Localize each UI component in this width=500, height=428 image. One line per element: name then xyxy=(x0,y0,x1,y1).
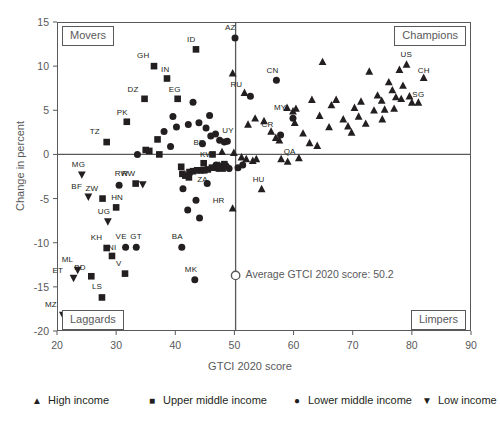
x-tick-label: 30 xyxy=(96,339,136,351)
y-tick-label: -5 xyxy=(23,193,49,205)
data-point-label: KW xyxy=(200,150,213,159)
data-point-label: BD xyxy=(74,263,86,272)
legend-item-high-income: ▲ High income xyxy=(30,394,109,406)
data-point-label: HU xyxy=(253,175,265,184)
data-point-label: GH xyxy=(137,51,149,60)
data-point-label: KH xyxy=(91,233,103,242)
data-point-label: CR xyxy=(262,120,274,129)
data-point-label: TZ xyxy=(90,127,100,136)
data-point-label: IN xyxy=(161,65,169,74)
data-point-label: MY xyxy=(274,103,286,112)
square-icon: ■ xyxy=(145,395,159,406)
circle-icon: ● xyxy=(290,395,304,406)
y-tick-label: -10 xyxy=(23,237,49,249)
legend-label-high-income: High income xyxy=(48,394,109,406)
y-tick-label: -20 xyxy=(23,325,49,337)
triangle-up-icon: ▲ xyxy=(30,395,44,406)
data-point-label: CH xyxy=(418,66,430,75)
x-tick-label: 60 xyxy=(274,339,314,351)
data-point-label: ZA xyxy=(197,175,208,184)
x-tick-label: 80 xyxy=(392,339,432,351)
data-point-label: BR xyxy=(194,138,206,147)
data-point-label: ET xyxy=(53,266,64,275)
y-tick-label: 15 xyxy=(23,16,49,28)
data-point-label: SG xyxy=(412,90,424,99)
y-tick-label: 5 xyxy=(23,104,49,116)
data-point-label: CN xyxy=(266,66,278,75)
data-point-label: UY xyxy=(222,126,234,135)
data-point-label: ZW xyxy=(86,184,99,193)
quadrant-label-movers: Movers xyxy=(62,26,114,46)
y-tick-label: -15 xyxy=(23,281,49,293)
data-point-label: MK xyxy=(185,265,197,274)
x-tick-label: 90 xyxy=(451,339,491,351)
data-point-label: US xyxy=(401,50,413,59)
x-axis-title: GTCI 2020 score xyxy=(0,360,500,372)
x-tick-label: 70 xyxy=(333,339,373,351)
legend-label-low-income: Low income xyxy=(438,394,497,406)
average-score-annotation: Average GTCI 2020 score: 50.2 xyxy=(246,268,394,280)
data-point-label: RW xyxy=(122,169,136,178)
quadrant-label-laggards: Laggards xyxy=(62,310,124,330)
data-point-label: EG xyxy=(169,85,181,94)
quadrant-label-limpers: Limpers xyxy=(411,310,466,330)
y-axis-title: Change in percent xyxy=(14,86,26,246)
data-point-label: VE xyxy=(116,232,127,241)
data-point-label: RU xyxy=(230,80,242,89)
data-point-label: AZ xyxy=(225,23,236,32)
legend-item-low-income: ▼ Low income xyxy=(420,394,497,406)
legend-label-lower-middle-income: Lower middle income xyxy=(308,394,412,406)
data-point-label: DZ xyxy=(128,85,139,94)
quadrant-label-champions: Champions xyxy=(394,26,466,46)
data-point-label: LS xyxy=(92,282,102,291)
y-tick-label: 10 xyxy=(23,60,49,72)
legend-label-upper-middle-income: Upper middle income xyxy=(163,394,267,406)
data-point-label: NI xyxy=(108,243,116,252)
data-point-label: MG xyxy=(72,160,85,169)
data-point-label: ML xyxy=(62,255,74,264)
triangle-down-icon: ▼ xyxy=(420,395,434,406)
data-point-label: V xyxy=(116,259,122,268)
chart-root: 151050-5-10-15-20 2030405060708090 CHUSS… xyxy=(0,0,500,428)
x-tick-label: 20 xyxy=(37,339,77,351)
data-point-label: BF xyxy=(71,182,82,191)
data-point-label: GT xyxy=(130,232,142,241)
data-point-label: UG xyxy=(98,207,110,216)
legend-item-upper-middle-income: ■ Upper middle income xyxy=(145,394,267,406)
legend-item-lower-middle-income: ● Lower middle income xyxy=(290,394,412,406)
chart-legend: ▲ High income ■ Upper middle income ● Lo… xyxy=(0,388,500,412)
y-tick-label: 0 xyxy=(23,148,49,160)
data-point-label: HN xyxy=(111,193,123,202)
data-point-label: QA xyxy=(284,147,296,156)
x-tick-label: 50 xyxy=(214,339,254,351)
x-tick-label: 40 xyxy=(155,339,195,351)
data-point-label: MZ xyxy=(45,300,57,309)
data-point-label: PK xyxy=(117,108,128,117)
data-point-label: HR xyxy=(213,196,225,205)
data-point-label: BA xyxy=(172,232,183,241)
data-point-label: ID xyxy=(187,35,195,44)
